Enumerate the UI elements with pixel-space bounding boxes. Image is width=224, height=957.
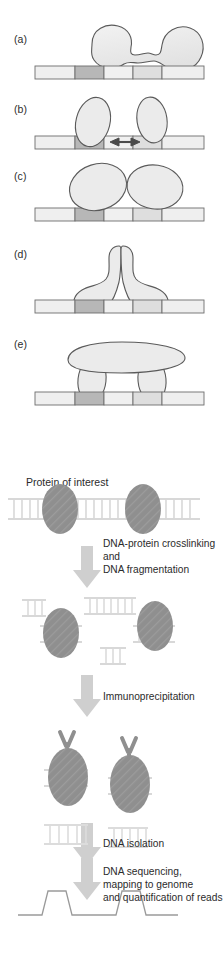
step-text-dna-isolation: DNA isolation [103,837,164,850]
panel-d-illustration [30,238,210,316]
panel-c-illustration [30,158,210,226]
protein-shape [92,25,204,71]
panel-a-illustration [30,22,210,84]
panel-label-d: (d) [14,248,27,260]
immunoprecipitated-complex [44,732,88,806]
antibody-icon [122,738,136,758]
step-text-crosslinking: DNA-protein crosslinking and DNA fragmen… [103,537,215,577]
immunoprecipitated-complex [108,738,152,813]
protein-shape [74,246,121,306]
panel-e-illustration [30,328,210,410]
dna-duplex-intact [8,499,200,519]
protein-of-interest [125,484,161,534]
protein-of-interest [43,608,79,658]
step-arrow-icon [73,858,101,900]
protein-of-interest [110,755,150,813]
panel-label-e: (e) [14,338,27,350]
protein-of-interest [48,748,88,806]
panel-label-c: (c) [14,170,27,182]
dna-bar [35,392,204,405]
protein-complex-cap [68,342,185,373]
protein-shape [124,161,186,212]
dna-bar [35,66,204,79]
dna-bar [35,300,204,313]
chip-seq-workflow: Protein of interest [0,440,224,957]
step-text-dna-sequencing: DNA sequencing, mapping to genome and qu… [103,865,223,905]
panel-label-a: (a) [14,33,27,45]
step-arrow-icon [73,546,101,588]
panel-b-illustration [30,92,210,154]
protein-binding-panels: (a) (b) [0,0,224,430]
panel-label-b: (b) [14,103,27,115]
protein-shape [121,246,168,306]
protein-of-interest [42,484,78,534]
dna-bar [35,208,204,221]
figure-root: (a) (b) [0,0,224,957]
step-arrow-icon [73,675,101,717]
step-text-immunoprecipitation: Immunoprecipitation [103,690,195,703]
protein-of-interest [137,601,173,651]
